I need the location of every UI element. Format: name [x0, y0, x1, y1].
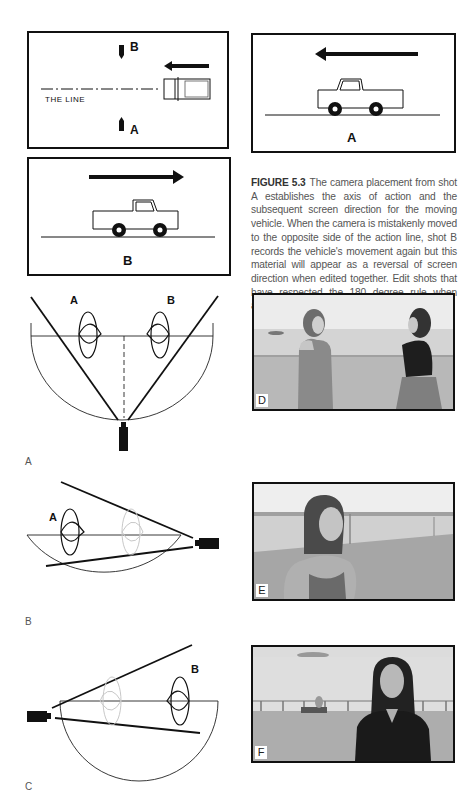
truck-side-icon: [318, 79, 403, 116]
panel-label-c: C: [25, 781, 32, 792]
camera-icon: [119, 427, 128, 451]
subject-b-icon: [147, 312, 169, 358]
camera-icon: [199, 538, 219, 549]
panel-b-diagram: A: [0, 460, 240, 630]
svg-text:B: B: [191, 663, 199, 675]
svg-text:A: A: [347, 130, 357, 145]
photo-tag-d: D: [256, 394, 268, 407]
panel-a-diagram: A B: [0, 290, 240, 470]
camera-b-icon: [119, 45, 124, 55]
svg-text:B: B: [130, 40, 139, 54]
panel-c-diagram: B: [0, 630, 240, 804]
photo-tag-f: F: [255, 746, 267, 759]
figure-number: FIGURE 5.3: [251, 177, 306, 188]
photo-d-two-shot: D: [252, 293, 455, 411]
svg-text:A: A: [130, 123, 139, 137]
svg-text:THE LINE: THE LINE: [45, 95, 85, 104]
panel-label-b: B: [25, 616, 32, 627]
camera-a-icon: [119, 121, 124, 131]
photo-e-single-shot: E: [252, 482, 455, 601]
subject-a-icon: [79, 312, 101, 358]
caption-text: The camera placement from shot A establi…: [251, 177, 457, 311]
svg-text:A: A: [49, 511, 57, 523]
shot-a-frame: A: [251, 33, 456, 153]
svg-text:B: B: [167, 294, 175, 306]
truck-side-icon: [93, 200, 178, 237]
shot-b-frame: B: [27, 157, 231, 276]
photo-f-single-shot: F: [251, 645, 455, 763]
photo-tag-e: E: [256, 584, 268, 597]
overhead-diagram-svg: B A THE LINE: [29, 33, 227, 147]
camera-icon: [27, 711, 47, 722]
svg-text:A: A: [70, 294, 78, 306]
svg-text:B: B: [123, 253, 132, 268]
truck-top-icon: [164, 79, 210, 99]
subject-a-icon: [61, 509, 84, 555]
overhead-line-diagram: B A THE LINE: [27, 31, 229, 149]
